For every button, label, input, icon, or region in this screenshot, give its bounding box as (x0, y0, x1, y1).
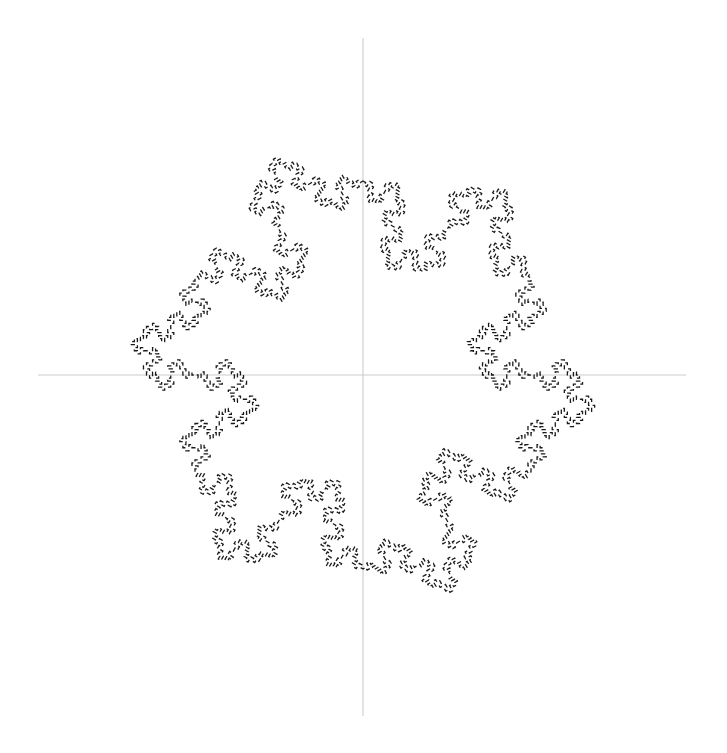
fractal-plot-svg (0, 0, 727, 753)
plot-canvas (0, 0, 727, 753)
